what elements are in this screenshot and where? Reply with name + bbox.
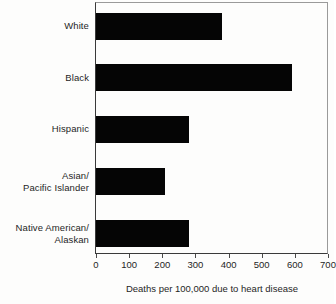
x-axis-tick-mark bbox=[262, 254, 263, 258]
x-axis-tick-label: 0 bbox=[93, 259, 98, 271]
x-axis-tick-label: 700 bbox=[320, 259, 336, 271]
bar-series bbox=[96, 2, 328, 254]
x-axis-title: Deaths per 100,000 due to heart disease bbox=[96, 283, 328, 295]
bar-black bbox=[96, 64, 292, 91]
y-axis-label-native-american-alaskan-line-1: Native American/ bbox=[0, 222, 89, 234]
x-axis-tick-mark bbox=[229, 254, 230, 258]
y-axis-label-asian-pacific-islander-line-1: Asian/ bbox=[0, 170, 89, 182]
x-axis-tick-label: 400 bbox=[221, 259, 237, 271]
y-axis-label-white-line-1: White bbox=[0, 20, 89, 32]
x-axis-tick-mark bbox=[96, 254, 97, 258]
x-axis-tick-mark bbox=[162, 254, 163, 258]
x-axis-tick-labels: 0100200300400500600700 bbox=[0, 259, 334, 273]
y-axis-category-labels: White Black Hispanic Asian/ Pacific Isla… bbox=[0, 2, 89, 254]
x-axis-tick-label: 200 bbox=[154, 259, 170, 271]
y-axis-label-black: Black bbox=[0, 72, 89, 84]
x-axis-tick-label: 300 bbox=[187, 259, 203, 271]
y-axis-label-hispanic: Hispanic bbox=[0, 123, 89, 135]
x-axis-tick-label: 600 bbox=[287, 259, 303, 271]
x-axis-tick-mark bbox=[129, 254, 130, 258]
bar-asian-pacific-islander bbox=[96, 168, 165, 195]
x-axis-tick-label: 100 bbox=[121, 259, 137, 271]
y-axis-label-hispanic-line-1: Hispanic bbox=[0, 123, 89, 135]
y-axis-label-native-american-alaskan-line-2: Alaskan bbox=[0, 234, 89, 246]
x-axis-tick-mark bbox=[328, 254, 329, 258]
bar-white bbox=[96, 13, 222, 40]
x-axis-tick-mark bbox=[295, 254, 296, 258]
y-axis-label-native-american-alaskan: Native American/ Alaskan bbox=[0, 222, 89, 245]
y-axis-label-asian-pacific-islander: Asian/ Pacific Islander bbox=[0, 170, 89, 193]
bar-native-american-alaskan bbox=[96, 220, 189, 247]
x-axis-tick-mark bbox=[195, 254, 196, 258]
y-axis-label-asian-pacific-islander-line-2: Pacific Islander bbox=[0, 182, 89, 194]
y-axis-label-white: White bbox=[0, 20, 89, 32]
bar-hispanic bbox=[96, 116, 189, 143]
y-axis-label-black-line-1: Black bbox=[0, 72, 89, 84]
x-axis-tick-label: 500 bbox=[254, 259, 270, 271]
